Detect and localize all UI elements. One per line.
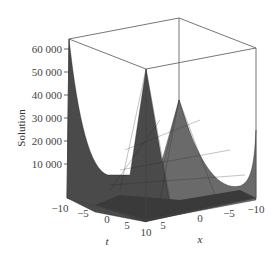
x-axis-title: x xyxy=(197,233,203,245)
t-tick-0: 0 xyxy=(104,213,110,225)
z-tick-30000: 30 000 xyxy=(32,112,63,124)
z-tick-10000: 10 000 xyxy=(32,158,63,170)
z-tick-20000: 20 000 xyxy=(32,135,63,147)
x-tick-0: 0 xyxy=(197,212,203,224)
t-tick-5: 5 xyxy=(124,219,130,231)
z-tick-40000: 40 000 xyxy=(32,89,63,101)
z-tick-60000: 60 000 xyxy=(32,43,63,55)
x-tick-5: 5 xyxy=(160,219,166,231)
z-tick-50000: 50 000 xyxy=(32,66,63,78)
t-tick-neg5: −5 xyxy=(77,207,89,219)
z-axis-title: Solution xyxy=(15,109,27,147)
x-tick-neg5: −5 xyxy=(223,207,235,219)
t-axis-title: t xyxy=(105,235,109,247)
x-tick-neg10: −10 xyxy=(247,203,265,215)
surface-plot: 60 000 50 000 40 000 30 000 20 000 10 00… xyxy=(0,0,277,259)
t-tick-10: 10 xyxy=(141,226,153,238)
t-tick-neg10: −10 xyxy=(51,202,69,214)
z-axis: 60 000 50 000 40 000 30 000 20 000 10 00… xyxy=(15,43,69,170)
